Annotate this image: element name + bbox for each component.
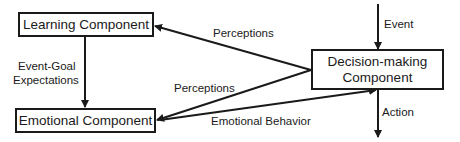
decision-making-component-box: Decision-making Component	[311, 49, 444, 90]
event-goal-label-line2: Expectations	[13, 73, 79, 87]
action-label: Action	[382, 105, 414, 119]
emotional-component-label: Emotional Component	[19, 113, 153, 129]
learning-component-label: Learning Component	[23, 17, 149, 33]
perceptions-mid-label: Perceptions	[174, 81, 235, 95]
emotional-component-box: Emotional Component	[15, 108, 156, 133]
diagram: Learning Component Emotional Component D…	[0, 0, 460, 142]
event-label: Event	[384, 17, 413, 31]
learning-component-box: Learning Component	[18, 12, 154, 37]
arrow-perceptions-to-emotional	[157, 70, 311, 120]
perceptions-top-label: Perceptions	[213, 26, 274, 40]
decision-label-line1: Decision-making	[328, 54, 428, 70]
decision-label-line2: Component	[343, 70, 413, 86]
emotional-behavior-label: Emotional Behavior	[211, 114, 311, 128]
event-goal-label-line1: Event-Goal	[18, 59, 76, 73]
